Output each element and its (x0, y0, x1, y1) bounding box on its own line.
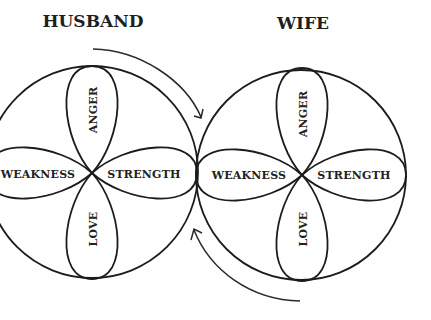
arrow-top-curve (93, 49, 201, 117)
husband-label-love: LOVE (87, 212, 100, 247)
husband-title: HUSBAND (42, 11, 143, 31)
arrow-top (93, 49, 203, 118)
husband-circle-group: ANGER LOVE WEAKNESS STRENGTH (0, 66, 198, 279)
wife-title: WIFE (276, 13, 329, 33)
wife-circle-group: ANGER LOVE WEAKNESS STRENGTH (196, 68, 406, 281)
wife-label-weakness: WEAKNESS (211, 169, 287, 182)
husband-label-weakness: WEAKNESS (0, 168, 75, 181)
husband-label-strength: STRENGTH (107, 168, 180, 181)
wife-label-strength: STRENGTH (317, 169, 390, 182)
wife-label-anger: ANGER (297, 90, 310, 138)
wife-label-love: LOVE (297, 212, 310, 247)
husband-label-anger: ANGER (87, 86, 100, 134)
husband-wife-diagram: HUSBAND WIFE ANGER LOVE WEAKNESS STRENGT… (0, 0, 431, 320)
